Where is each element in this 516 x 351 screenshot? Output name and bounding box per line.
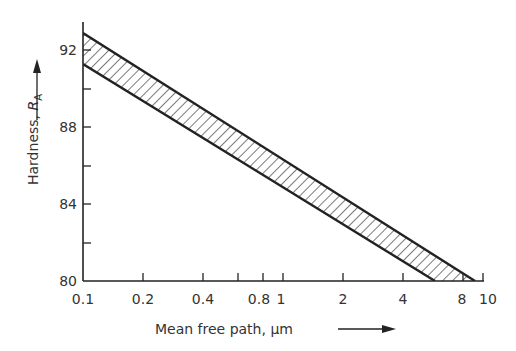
svg-text:0.8: 0.8 <box>248 291 270 307</box>
svg-text:84: 84 <box>59 196 77 212</box>
svg-text:80: 80 <box>59 273 77 289</box>
y-axis-title: Hardness, RA <box>25 94 44 185</box>
y-tick-labels: 92 88 84 80 <box>59 42 77 289</box>
x-axis-title: Mean free path, µm <box>155 321 293 337</box>
svg-text:Hardness, RA: Hardness, RA <box>25 94 44 185</box>
svg-text:0.4: 0.4 <box>192 291 214 307</box>
x-tick-labels: 0.1 0.2 0.4 0.8 1 2 4 8 10 <box>72 291 497 307</box>
lower-bound-line <box>83 64 435 281</box>
svg-text:88: 88 <box>59 119 77 135</box>
svg-text:1: 1 <box>277 291 286 307</box>
svg-text:0.2: 0.2 <box>132 291 154 307</box>
svg-text:8: 8 <box>458 291 467 307</box>
svg-text:92: 92 <box>59 42 77 58</box>
svg-text:4: 4 <box>399 291 408 307</box>
x-arrow-icon <box>338 325 396 333</box>
chart: 92 88 84 80 0.1 0.2 0.4 0.8 1 2 4 8 10 M… <box>0 0 516 351</box>
upper-bound-line <box>83 33 475 281</box>
y-ticks <box>83 50 91 243</box>
svg-text:10: 10 <box>479 291 497 307</box>
svg-text:0.1: 0.1 <box>72 291 94 307</box>
hardness-band <box>83 33 475 281</box>
svg-text:2: 2 <box>339 291 348 307</box>
